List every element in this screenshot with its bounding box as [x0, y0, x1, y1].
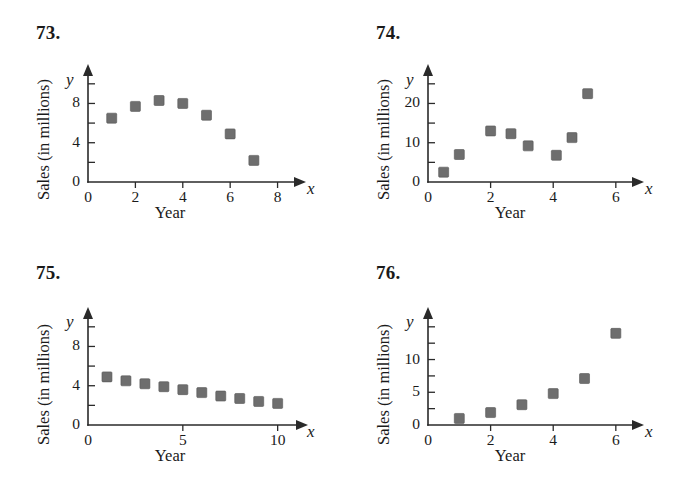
data-point-marker — [225, 129, 235, 139]
y-tick-label: 0 — [380, 172, 420, 190]
x-tick-label: 2 — [471, 431, 511, 449]
x-tick-label: 10 — [258, 431, 298, 449]
x-tick-label: 4 — [163, 188, 203, 206]
x-tick-label: 4 — [533, 188, 573, 206]
data-point-marker — [523, 141, 533, 151]
data-point-marker — [611, 328, 621, 338]
y-tick-label: 20 — [380, 93, 420, 111]
data-point-marker — [159, 382, 169, 392]
x-tick-label: 6 — [596, 431, 636, 449]
panel-73: 73. Sales (in millions) Year y x 0246804… — [0, 0, 340, 240]
x-tick-label: 2 — [471, 188, 511, 206]
y-tick-label: 8 — [40, 93, 80, 111]
data-point-marker — [439, 167, 449, 177]
y-tick-label: 8 — [40, 336, 80, 354]
data-point-marker — [551, 150, 561, 160]
data-point-marker — [273, 398, 283, 408]
y-tick-label: 5 — [380, 382, 420, 400]
x-tick-label: 0 — [68, 188, 108, 206]
y-tick-label: 0 — [40, 415, 80, 433]
x-tick-label: 8 — [258, 188, 298, 206]
x-tick-label: 2 — [115, 188, 155, 206]
data-point-marker — [178, 385, 188, 395]
x-tick-label: 0 — [408, 188, 448, 206]
data-point-marker — [517, 400, 527, 410]
x-tick-label: 4 — [533, 431, 573, 449]
data-point-marker — [454, 150, 464, 160]
data-point-marker — [178, 98, 188, 108]
data-point-marker — [201, 110, 211, 120]
data-point-marker — [249, 155, 259, 165]
x-tick-label: 0 — [408, 431, 448, 449]
y-tick-label: 0 — [380, 415, 420, 433]
x-tick-label: 6 — [596, 188, 636, 206]
data-point-marker — [235, 393, 245, 403]
data-point-marker — [102, 372, 112, 382]
panel-75: 75. Sales (in millions) Year y x 0510048 — [0, 240, 340, 483]
data-point-marker — [548, 389, 558, 399]
data-point-marker — [154, 96, 164, 106]
data-point-marker — [216, 391, 226, 401]
panel-74: 74. Sales (in millions) Year y x 0246010… — [340, 0, 677, 240]
data-point-marker — [197, 388, 207, 398]
data-point-marker — [583, 89, 593, 99]
data-point-marker — [254, 396, 264, 406]
x-tick-label: 5 — [163, 431, 203, 449]
data-point-marker — [567, 133, 577, 143]
data-point-marker — [580, 374, 590, 384]
y-tick-label: 4 — [40, 133, 80, 151]
x-tick-label: 6 — [210, 188, 250, 206]
y-tick-label: 10 — [380, 133, 420, 151]
x-tick-label: 0 — [68, 431, 108, 449]
data-point-marker — [130, 101, 140, 111]
data-point-marker — [454, 413, 464, 423]
data-point-marker — [486, 126, 496, 136]
y-tick-label: 4 — [40, 376, 80, 394]
data-point-marker — [121, 376, 131, 386]
data-point-marker — [486, 408, 496, 418]
data-point-marker — [140, 379, 150, 389]
y-tick-label: 0 — [40, 172, 80, 190]
y-tick-label: 10 — [380, 350, 420, 368]
panel-76: 76. Sales (in millions) Year y x 0246051… — [340, 240, 677, 483]
exercise-figure-grid: 73. Sales (in millions) Year y x 0246804… — [0, 0, 677, 483]
data-point-marker — [506, 129, 516, 139]
data-point-marker — [107, 113, 117, 123]
